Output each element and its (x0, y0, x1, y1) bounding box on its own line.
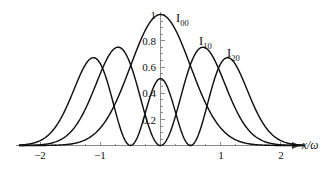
y-axis-ticks (161, 15, 165, 140)
intensity-modes-figure: I00 I10 I20 −2 −1 1 2 0.2 0.4 0.6 0.8 1 … (0, 0, 331, 170)
curve-label-i00: I00 (176, 12, 189, 27)
x-tick-label-1: 1 (218, 150, 224, 161)
y-tick-label-04: 0.4 (136, 88, 156, 99)
curve-label-i20: I20 (227, 47, 240, 62)
curve-label-i10: I10 (199, 35, 212, 50)
y-tick-label-1: 1 (136, 9, 156, 20)
curve-label-i20-sub: 20 (231, 53, 240, 63)
plot-canvas (0, 0, 331, 170)
y-tick-label-06: 0.6 (136, 62, 156, 73)
x-axis-title: x/ω (302, 140, 318, 152)
x-tick-label-2: 2 (278, 150, 284, 161)
x-tick-label-neg2: −2 (34, 150, 46, 161)
y-tick-label-02: 0.2 (136, 114, 156, 125)
curve-label-i10-sub: 10 (203, 41, 212, 51)
x-tick-label-neg1: −1 (94, 150, 106, 161)
y-tick-label-08: 0.8 (136, 35, 156, 46)
curve-label-i00-sub: 00 (180, 18, 189, 28)
curve-i10 (20, 47, 304, 145)
